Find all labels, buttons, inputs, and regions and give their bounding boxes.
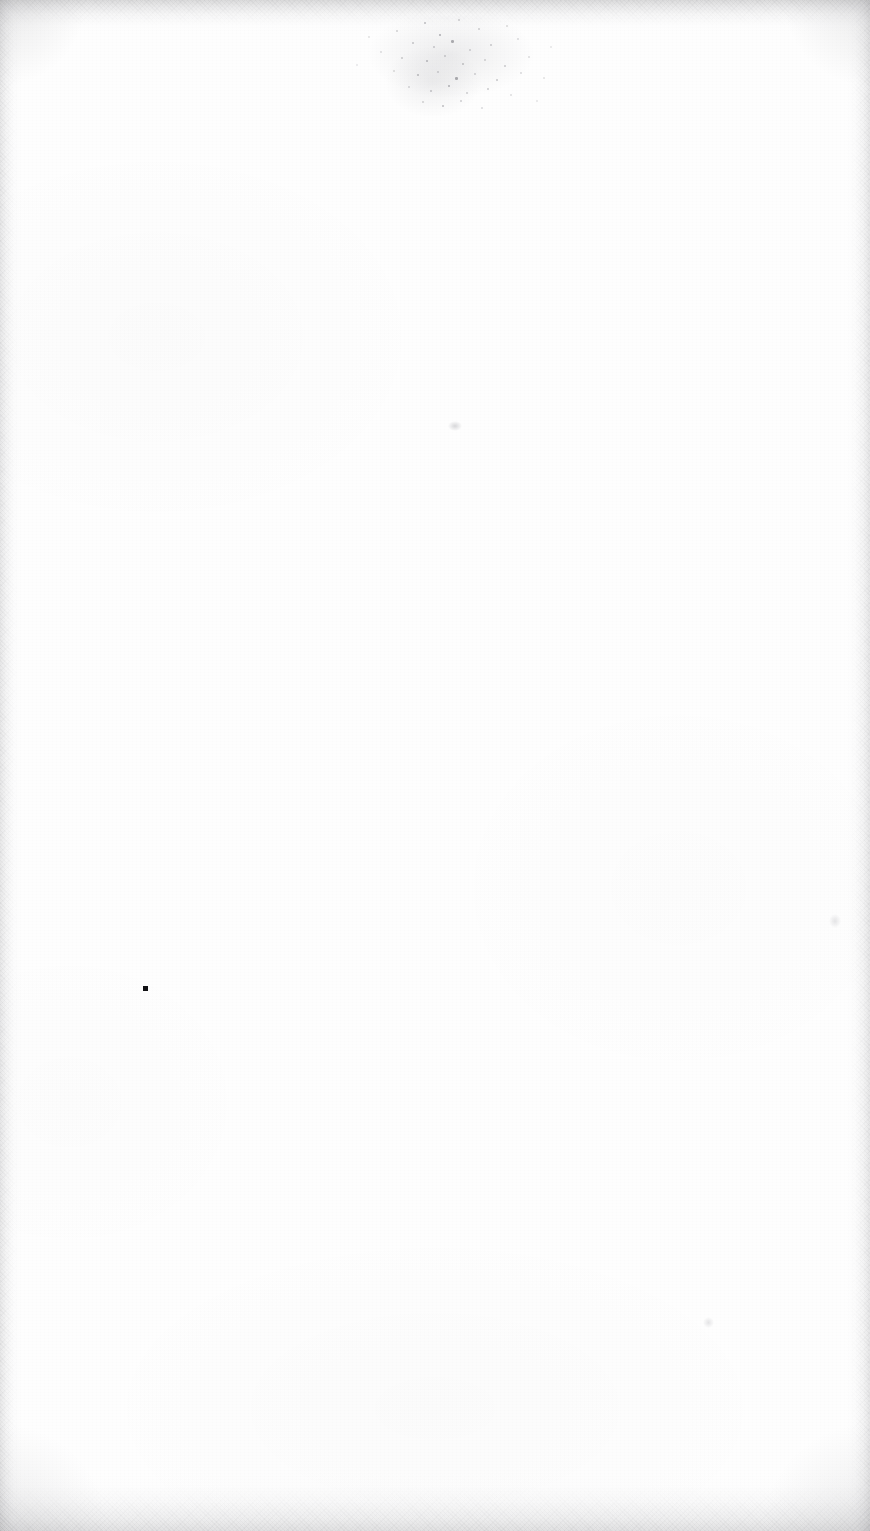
scanned-page: Blank scanned page xyxy=(0,0,870,1531)
page-text-content xyxy=(60,120,810,1411)
ink-speck xyxy=(143,986,148,991)
